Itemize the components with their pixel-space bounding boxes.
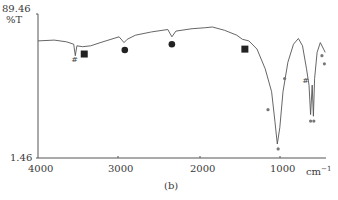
star-marker-icon <box>312 120 315 123</box>
x-unit-exponent: −1 <box>321 165 331 173</box>
star-marker-icon <box>309 120 312 123</box>
x-tick-1000: 1000 <box>270 164 295 174</box>
square-marker-icon <box>241 46 248 53</box>
x-tick-3000: 3000 <box>108 164 133 174</box>
axes <box>36 14 326 158</box>
star-marker-icon <box>283 77 286 80</box>
y-min-label: 1.46 <box>10 153 32 163</box>
circle-marker-icon <box>122 47 129 54</box>
x-tick-2000: 2000 <box>190 164 215 174</box>
hash-marker-icon: # <box>302 76 309 85</box>
figure-caption: (b) <box>164 181 178 191</box>
x-unit-text: cm <box>306 166 321 177</box>
y-unit-label: %T <box>6 15 22 25</box>
peak-markers: ## <box>71 41 326 151</box>
star-marker-icon <box>320 54 323 57</box>
star-marker-icon <box>277 147 280 150</box>
hash-marker-icon: # <box>71 55 78 64</box>
x-tick-4000: 4000 <box>28 164 53 174</box>
x-unit-label: cm−1 <box>306 164 331 177</box>
y-max-label: 89.46 <box>2 4 31 14</box>
square-marker-icon <box>81 51 88 58</box>
star-marker-icon <box>266 108 269 111</box>
star-marker-icon <box>323 62 326 65</box>
circle-marker-icon <box>169 41 176 48</box>
spectrum-line <box>38 27 325 144</box>
